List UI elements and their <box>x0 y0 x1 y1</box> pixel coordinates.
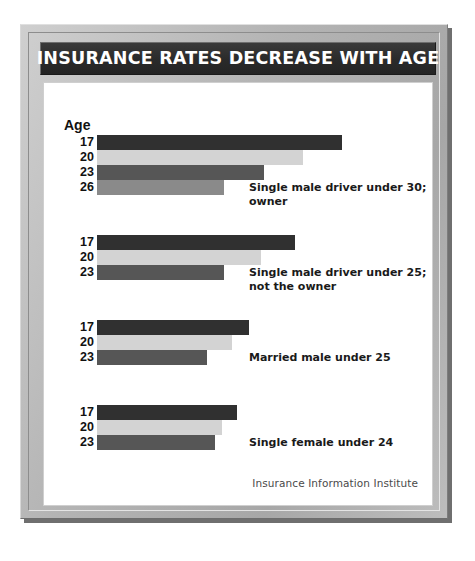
bar-label-age: 20 <box>44 420 94 435</box>
bar-label-age: 23 <box>44 350 94 365</box>
bar-row: 17 <box>44 135 434 150</box>
bar-label-age: 23 <box>44 435 94 450</box>
bar <box>97 350 207 365</box>
bar <box>97 165 264 180</box>
bar-group-caption: Single male driver under 30; owner <box>249 181 439 208</box>
bar-row: 23 <box>44 165 434 180</box>
title-banner: INSURANCE RATES DECREASE WITH AGE <box>40 42 436 75</box>
bar-label-age: 26 <box>44 180 94 195</box>
bar <box>97 435 215 450</box>
bar-row: 20 <box>44 335 434 350</box>
bar-label-age: 17 <box>44 405 94 420</box>
poster-root: INSURANCE RATES DECREASE WITH AGE Age 17… <box>0 0 475 561</box>
bar <box>97 235 295 250</box>
bar <box>97 135 342 150</box>
axis-title-age: Age <box>64 117 90 133</box>
bar <box>97 335 232 350</box>
bar-label-age: 17 <box>44 135 94 150</box>
bar-chart: Age 17202326Single male driver under 30;… <box>44 83 434 507</box>
bar-label-age: 17 <box>44 320 94 335</box>
bar <box>97 420 222 435</box>
bar <box>97 250 261 265</box>
bar <box>97 150 303 165</box>
bar-row: 17 <box>44 235 434 250</box>
bar-row: 20 <box>44 250 434 265</box>
bar-row: 20 <box>44 420 434 435</box>
source-credit: Insurance Information Institute <box>252 477 418 489</box>
bar-label-age: 20 <box>44 335 94 350</box>
bar-label-age: 17 <box>44 235 94 250</box>
bar-row: 17 <box>44 320 434 335</box>
bar-group-caption: Single female under 24 <box>249 436 439 450</box>
bar-row: 17 <box>44 405 434 420</box>
page-title: INSURANCE RATES DECREASE WITH AGE <box>37 50 440 68</box>
bar <box>97 405 237 420</box>
bar <box>97 265 224 280</box>
bar <box>97 320 249 335</box>
chart-panel: Age 17202326Single male driver under 30;… <box>43 82 433 506</box>
bar-group-caption: Single male driver under 25; not the own… <box>249 266 439 293</box>
bar <box>97 180 224 195</box>
bar-label-age: 20 <box>44 150 94 165</box>
bar-row: 20 <box>44 150 434 165</box>
bar-label-age: 23 <box>44 165 94 180</box>
bar-group-caption: Married male under 25 <box>249 351 439 365</box>
bar-label-age: 23 <box>44 265 94 280</box>
bar-label-age: 20 <box>44 250 94 265</box>
